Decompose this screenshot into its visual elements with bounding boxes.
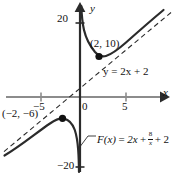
function-equation-lhs: F(x) [97,134,116,145]
x-tick-label-5: 5 [122,101,128,112]
y-tick-label-20: 20 [57,13,68,24]
function-equation-label: F(x) = 2x + 8 x + 2 [97,131,169,147]
function-label-leader-line [81,136,97,146]
point-marker-local-minimum [95,53,102,60]
point-label-local-minimum: (2, 10) [90,38,119,49]
graph-canvas [0,0,175,178]
fraction-numerator: 8 [148,131,154,138]
function-equation-term3: 2 [163,134,169,145]
function-equation-plus1: + [140,134,146,145]
function-equation-equals: = [118,134,124,145]
point-label-local-maximum: (−2, −6) [2,108,38,119]
y-axis-arrow-icon [75,2,86,12]
function-equation-plus2: + [155,134,161,145]
graph-figure: 20 −20 −5 0 5 x y (2, 10) (−2, −6) y = 2… [0,0,175,178]
x-axis-label: x [163,87,168,98]
function-equation-fraction: 8 x [148,131,154,147]
y-tick-label-neg20: −20 [57,160,74,171]
asymptote-equation-label: y = 2x + 2 [103,66,148,77]
y-axis-label: y [90,3,95,14]
function-equation-term1: 2x [127,134,137,145]
x-tick-label-0: 0 [82,101,88,112]
point-marker-local-maximum [59,115,66,122]
fraction-denominator: x [148,140,153,147]
